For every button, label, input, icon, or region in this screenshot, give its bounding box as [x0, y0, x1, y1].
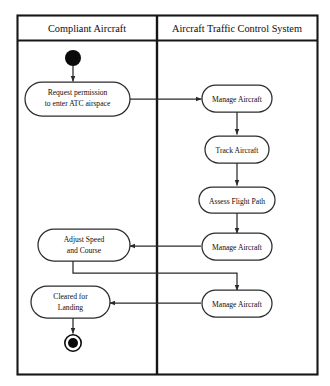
- action-node-cleared-for-landing[interactable]: Cleared for Landing: [31, 286, 110, 318]
- action-label-request-line2: to enter ATC airspace: [45, 99, 111, 108]
- lane-title-atc-system: Aircraft Traffic Control System: [172, 23, 302, 34]
- action-label-manage-aircraft-3: Manage Aircraft: [212, 300, 263, 309]
- final-node: [65, 335, 81, 351]
- action-label-cleared-line2: Landing: [58, 303, 84, 312]
- lane-title-compliant-aircraft: Compliant Aircraft: [48, 23, 126, 34]
- initial-node: [65, 50, 81, 66]
- activity-diagram: Compliant Aircraft Aircraft Traffic Cont…: [0, 0, 330, 386]
- action-node-manage-aircraft-3[interactable]: Manage Aircraft: [202, 290, 272, 317]
- action-label-manage-aircraft-1: Manage Aircraft: [212, 95, 263, 104]
- action-node-adjust-speed-and-course[interactable]: Adjust Speed and Course: [38, 229, 130, 261]
- uml-activity-canvas: Compliant Aircraft Aircraft Traffic Cont…: [0, 0, 330, 386]
- action-label-assess-flight-path: Assess Flight Path: [209, 197, 265, 206]
- action-node-assess-flight-path[interactable]: Assess Flight Path: [199, 187, 275, 213]
- action-label-track-aircraft: Track Aircraft: [216, 146, 260, 155]
- action-label-manage-aircraft-2: Manage Aircraft: [212, 243, 263, 252]
- action-label-request-line1: Request permission: [48, 88, 108, 97]
- action-node-manage-aircraft-1[interactable]: Manage Aircraft: [202, 85, 272, 112]
- action-node-track-aircraft[interactable]: Track Aircraft: [205, 136, 269, 163]
- action-node-request-permission[interactable]: Request permission to enter ATC airspace: [25, 82, 130, 116]
- action-node-manage-aircraft-2[interactable]: Manage Aircraft: [202, 233, 272, 260]
- action-label-adjust-line1: Adjust Speed: [64, 235, 105, 244]
- action-label-adjust-line2: and Course: [67, 246, 102, 255]
- action-label-cleared-line1: Cleared for: [53, 292, 88, 301]
